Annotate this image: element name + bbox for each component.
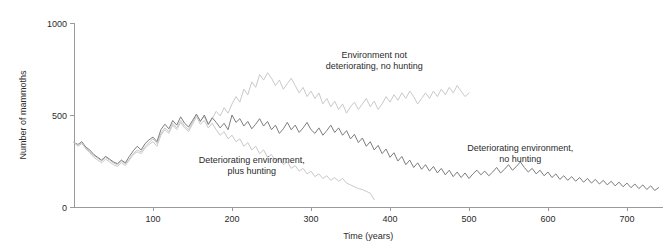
annotation-label: deteriorating, no hunting (326, 61, 423, 71)
x-tick-label: 300 (303, 214, 318, 224)
x-tick-label: 400 (382, 214, 397, 224)
annotation-label: no hunting (499, 154, 541, 164)
annotation-label: plus hunting (227, 166, 276, 176)
y-tick-label: 1000 (47, 19, 67, 29)
x-tick-label: 100 (145, 214, 160, 224)
x-tick-label: 500 (461, 214, 476, 224)
x-tick-label: 700 (619, 214, 634, 224)
x-tick-label: 600 (540, 214, 555, 224)
x-axis-title: Time (years) (343, 231, 393, 241)
mammoth-population-chart: 05001000100200300400500600700Time (years… (0, 0, 669, 250)
annotation-label: Deteriorating environment, (467, 143, 573, 153)
x-tick-label: 200 (224, 214, 239, 224)
y-tick-label: 0 (62, 203, 67, 213)
annotation-label: Environment not (341, 50, 407, 60)
y-axis-title: Number of mammoths (18, 70, 28, 160)
annotation-label: Deteriorating environment, (199, 155, 305, 165)
chart-plot-area: 05001000100200300400500600700Time (years… (0, 0, 669, 250)
y-tick-label: 500 (52, 111, 67, 121)
